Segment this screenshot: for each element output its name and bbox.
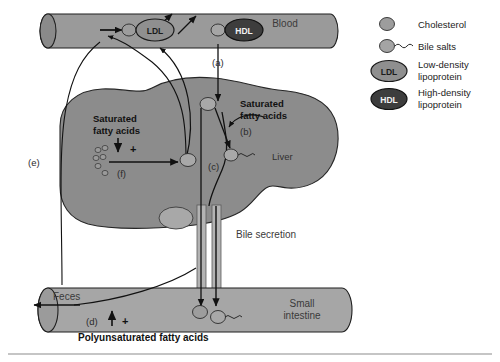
saturated-left-line1: Saturated — [93, 113, 137, 124]
legend-label-ldl-1: Low-density — [418, 59, 469, 70]
figure-canvas: Blood Liver Bile secretion Small intesti… — [0, 0, 500, 362]
cholesterol-particle-hdl — [211, 24, 225, 36]
saturated-right-group: Saturated fatty acids — [240, 98, 287, 121]
legend-label-hdl-1: High-density — [418, 87, 471, 98]
legend-hdl-text: HDL — [380, 95, 397, 105]
blood-vessel: Blood — [40, 14, 338, 48]
cholesterol-particle-liver-f — [180, 154, 196, 167]
legend-item-bile-salts: Bile salts — [380, 40, 457, 53]
blood-label: Blood — [272, 18, 298, 29]
saturated-right-line1: Saturated — [240, 98, 284, 109]
label-f: (f) — [117, 168, 126, 179]
small-intestine-label-2: intestine — [283, 310, 321, 321]
cholesterol-particle-blood — [122, 24, 136, 36]
label-e: (e) — [28, 157, 40, 168]
label-d: (d) — [86, 316, 98, 327]
cholesterol-particle-liver-top — [200, 98, 216, 111]
liver-label: Liver — [272, 151, 293, 162]
saturated-right-line2: fatty acids — [240, 110, 287, 121]
saturated-left-line2: fatty acids — [93, 125, 140, 136]
ldl-label: LDL — [147, 26, 164, 36]
cholesterol-blob-icon — [380, 18, 395, 31]
label-a: (a) — [212, 57, 224, 68]
cholesterol-particle-intestine — [193, 306, 208, 319]
feces-label: Feces — [53, 291, 80, 302]
polyunsaturated-label: Polyunsaturated fatty acids — [78, 332, 209, 343]
hdl-label: HDL — [235, 26, 252, 36]
legend: Cholesterol Bile salts LDL Low-density l… — [371, 18, 471, 111]
legend-label-bile-salts: Bile salts — [418, 41, 456, 52]
vessel-left-cap — [40, 14, 56, 48]
label-b: (b) — [240, 126, 252, 137]
plus-left: + — [130, 143, 136, 155]
legend-label-ldl-2: lipoprotein — [418, 71, 462, 82]
bile-secretion-label: Bile secretion — [236, 229, 296, 240]
small-intestine-label-1: Small — [289, 298, 314, 309]
label-c: (c) — [208, 161, 219, 172]
bile-salt-icon — [380, 40, 395, 53]
legend-item-cholesterol: Cholesterol — [380, 18, 467, 31]
ldl-particle: LDL — [136, 19, 174, 41]
legend-item-ldl: LDL Low-density lipoprotein — [371, 59, 469, 82]
legend-ldl-text: LDL — [381, 67, 398, 77]
gallbladder — [159, 207, 193, 229]
metabolism-diagram: Blood Liver Bile secretion Small intesti… — [0, 0, 500, 362]
legend-item-hdl: HDL High-density lipoprotein — [371, 87, 471, 110]
plus-bottom: + — [122, 315, 128, 327]
hdl-particle: HDL — [225, 19, 263, 41]
bile-salt-tail-icon — [395, 44, 413, 48]
legend-label-cholesterol: Cholesterol — [418, 19, 466, 30]
legend-label-hdl-2: lipoprotein — [418, 99, 462, 110]
